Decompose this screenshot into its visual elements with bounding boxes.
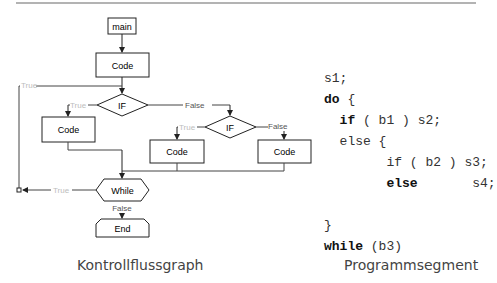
edge-label-if1-false: False [185,101,205,110]
code-keyword: do [324,92,340,107]
edge-label-if2-false: False [268,122,288,131]
graph-caption: Kontrollflussgraph [77,257,203,273]
code-line: else s4; [324,173,496,194]
code-line: s1; [324,68,496,89]
code-keyword: else [386,176,417,191]
node-code-left-label: Code [58,125,80,135]
code-keyword: if [340,113,356,128]
code-line: else { [324,131,496,152]
edge-label-loop-true: True [21,81,38,90]
code-line: } [324,215,496,236]
code-line: while (b3) [324,236,496,257]
edge-label-while-false: False [112,204,132,213]
node-end-label: End [114,224,130,234]
edge-label-if2-true: True [179,123,196,132]
loop-connector [17,188,21,192]
node-code-top-label: Code [112,61,134,71]
node-if2-label: IF [226,123,235,133]
code-line: do { [324,89,496,110]
slide: main Code True IF True Code False IF [0,0,497,283]
code-line: if ( b2 ) s3; [324,152,496,173]
program-caption: Programmsegment [344,257,478,273]
node-code-mid-label: Code [166,147,188,157]
node-main-label: main [112,22,132,32]
edge-label-if1-true: True [70,101,87,110]
code-line: if ( b1 ) s2; [324,110,496,131]
code-line [324,194,496,215]
code-keyword: while [324,239,363,254]
program-code: s1;do { if ( b1 ) s2; else { if ( b2 ) s… [324,68,496,257]
node-while-label: While [111,186,134,196]
node-code-right-label: Code [274,147,296,157]
node-if1-label: IF [118,101,127,111]
edge-label-while-true: True [53,186,70,195]
